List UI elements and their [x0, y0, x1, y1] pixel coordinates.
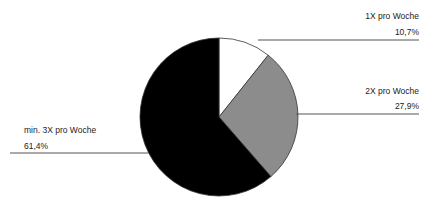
slice-label-2x-pct: 27,9% [395, 101, 419, 111]
slice-label-3x-name: min. 3X pro Woche [24, 125, 96, 135]
pie-chart [0, 0, 437, 207]
slice-label-3x-pct: 61,4% [24, 141, 48, 151]
slice-label-1x-name: 1X pro Woche [365, 11, 419, 21]
slice-label-1x-pct: 10,7% [395, 27, 419, 37]
slice-label-2x-name: 2X pro Woche [365, 86, 419, 96]
